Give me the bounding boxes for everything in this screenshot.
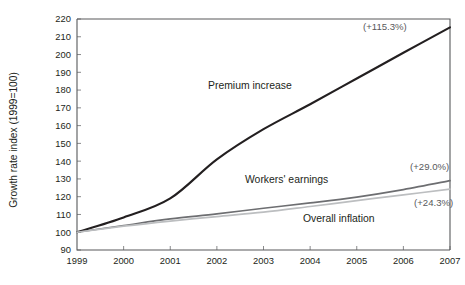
line-chart: Growth rate index (1999=100) 90100110120…	[0, 0, 465, 285]
series-label: Overall inflation	[303, 213, 375, 224]
y-tick-label: 210	[55, 31, 71, 42]
x-axis-ticks: 199920002001200220032004200520062007	[67, 246, 461, 266]
y-tick-label: 140	[55, 156, 71, 167]
series-inline-labels: Premium increaseWorkers' earningsOverall…	[208, 80, 375, 224]
series-group	[77, 27, 450, 232]
y-tick-label: 110	[56, 209, 71, 220]
growth-annotation: (+115.3%)	[363, 21, 407, 32]
x-tick-label: 2001	[160, 255, 181, 266]
y-axis-title: Growth rate index (1999=100)	[8, 72, 19, 208]
growth-annotation: (+29.0%)	[410, 161, 449, 172]
y-tick-label: 200	[55, 49, 71, 60]
y-tick-label: 100	[55, 227, 71, 238]
x-tick-label: 2003	[253, 255, 274, 266]
series-label: Workers' earnings	[245, 174, 328, 185]
y-tick-label: 120	[55, 191, 71, 202]
x-tick-label: 1999	[67, 255, 88, 266]
y-tick-label: 180	[55, 84, 71, 95]
series-line-overall-inflation	[77, 189, 450, 232]
x-tick-label: 2000	[113, 255, 134, 266]
y-tick-label: 190	[55, 67, 71, 78]
x-tick-label: 2002	[206, 255, 227, 266]
y-tick-label: 170	[55, 102, 71, 113]
x-tick-label: 2007	[440, 255, 461, 266]
x-tick-label: 2006	[393, 255, 414, 266]
y-tick-label: 130	[55, 173, 71, 184]
series-line-premium-increase	[77, 27, 450, 232]
x-tick-label: 2004	[300, 255, 321, 266]
y-tick-label: 150	[55, 138, 71, 149]
x-tick-label: 2005	[346, 255, 367, 266]
series-label: Premium increase	[208, 80, 292, 91]
y-tick-label: 160	[55, 120, 71, 131]
growth-annotation: (+24.3%)	[414, 197, 453, 208]
chart-container: Growth rate index (1999=100) 90100110120…	[0, 0, 465, 285]
y-tick-label: 220	[55, 13, 71, 24]
y-tick-label: 90	[61, 244, 71, 255]
